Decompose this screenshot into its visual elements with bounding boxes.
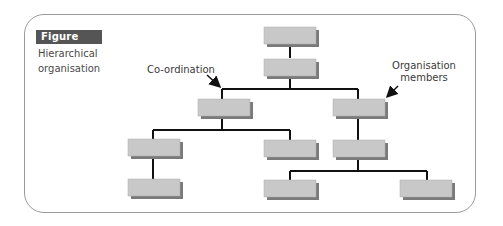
box-right-a-1 [264, 180, 319, 200]
org-boxes [128, 27, 455, 200]
members-label-line-2: members [386, 72, 462, 84]
box-coord [264, 59, 319, 79]
arrow-coordination [207, 75, 219, 86]
box-left-a-1 [128, 179, 183, 199]
box-left-a [128, 139, 183, 159]
box-right-a [333, 140, 388, 160]
coordination-label: Co-ordination [147, 64, 215, 76]
org-chart-diagram [0, 0, 503, 226]
box-right-a-2 [400, 180, 455, 200]
members-label-line-1: Organisation [386, 60, 462, 72]
members-label: Organisation members [386, 60, 462, 84]
arrow-members [388, 86, 398, 96]
box-root [264, 27, 319, 47]
box-left-b [264, 140, 319, 160]
box-right [333, 99, 388, 119]
box-left [198, 99, 253, 119]
